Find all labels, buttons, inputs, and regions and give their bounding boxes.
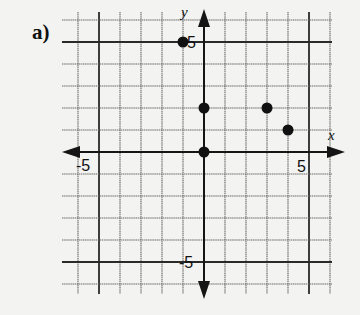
data-point	[262, 103, 273, 114]
y-axis-label: y	[179, 4, 188, 20]
x-axis-right-arrow-icon	[327, 146, 345, 158]
axis-labels: xy-555-5	[76, 4, 335, 271]
data-point	[178, 37, 189, 48]
coordinate-plane: xy-555-5	[0, 0, 360, 315]
data-point	[199, 147, 210, 158]
y-axis-down-arrow-icon	[198, 281, 210, 299]
data-point	[283, 125, 294, 136]
x-axis-label: x	[327, 127, 335, 143]
y-axis-up-arrow-icon	[198, 9, 210, 27]
data-point	[199, 103, 210, 114]
x-tick-label: -5	[76, 157, 90, 174]
x-tick-label: 5	[297, 158, 306, 175]
data-points	[178, 37, 294, 158]
y-tick-label: -5	[179, 254, 193, 271]
